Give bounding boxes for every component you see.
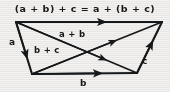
- vector-b-label: b: [80, 79, 87, 88]
- vector-a-plus-b-label: a + b: [59, 30, 85, 39]
- vector-a-arrow: [16, 22, 26, 55]
- vector-c-label: c: [142, 57, 148, 66]
- vector-b-arrow: [32, 73, 98, 74]
- associativity-equation-label: (a + b) + c = a + (b + c): [15, 4, 155, 14]
- vector-associativity-figure: (a + b) + c = a + (b + c) a b c a + b b …: [0, 0, 170, 92]
- vector-a-label: a: [9, 38, 15, 47]
- vector-b-plus-c-label: b + c: [34, 46, 60, 55]
